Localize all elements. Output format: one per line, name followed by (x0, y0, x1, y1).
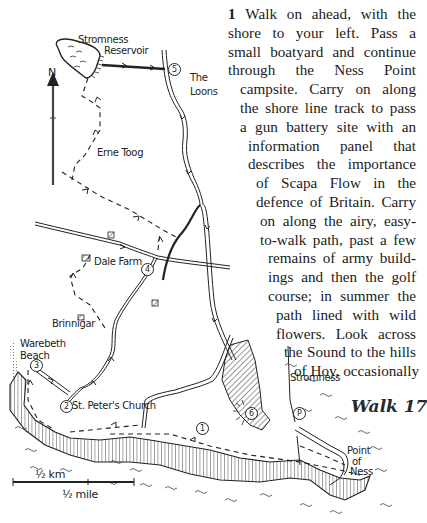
label-stromness-reservoir-2: Reservoir (104, 45, 148, 56)
label-point-of-ness-1: Point (347, 445, 370, 456)
label-the-loons-2: Loons (190, 86, 218, 97)
paragraph-line: course; in summer the (268, 287, 416, 306)
road-st-peters-to-stromness (142, 335, 233, 428)
label-brinnigar: Brinnigar (52, 318, 95, 329)
paragraph-line: to-walk path, past a few (260, 231, 416, 250)
label-the-loons-1: The (190, 72, 208, 83)
scale-km-label: ½ km (35, 468, 65, 481)
paragraph-line: 1 Walk on ahead, with the (228, 5, 416, 24)
paragraph-line: of Hoy, occasionally (294, 362, 416, 381)
label-dale-farm: Dale Farm (94, 256, 142, 267)
marker-parking: P (293, 407, 306, 420)
marker-6: 6 (245, 407, 258, 420)
paragraph-line: path lined with wild (276, 306, 416, 325)
label-erne-toog: Erne Toog (97, 147, 143, 158)
paragraph-line: campsite. Carry on along (240, 80, 416, 99)
buildings (78, 232, 158, 320)
marker-5: 5 (168, 63, 181, 76)
paragraph-line: information panel that (248, 137, 416, 156)
paragraph-line: a gun battery site with an (240, 118, 416, 137)
marker-4: 4 (141, 263, 154, 276)
marker-2: 2 (60, 400, 73, 413)
walk-title: Walk 17 (351, 396, 427, 416)
paragraph-line: defence of Britain. Carry (256, 193, 416, 212)
label-stromness-reservoir-1: Stromness (78, 34, 128, 45)
paragraph-line: the Sound to the hills (284, 343, 416, 362)
paragraph-line: flowers. Look across (276, 325, 416, 344)
scale-mile-label: ½ mile (62, 488, 98, 501)
road-to-st-peters (64, 258, 157, 405)
paragraph-line: shore to your left. Pass a (228, 24, 416, 43)
north-arrow (47, 72, 59, 185)
walk-description: 1 Walk on ahead, with theshore to your l… (228, 5, 416, 381)
paragraph-line: on along the airy, easy- (260, 212, 416, 231)
step-number: 1 (228, 5, 245, 22)
paragraph-line: small boatyard and continue (228, 43, 416, 62)
route-reservoir-to-loons (102, 63, 165, 70)
paragraph-line: the shore line track to pass (240, 99, 416, 118)
paragraph-line: remains of army build- (268, 249, 416, 268)
marker-3: 3 (30, 359, 43, 372)
paragraph-line: through the Ness Point (228, 61, 416, 80)
paragraph-line: of Scapa Flow in the (256, 174, 416, 193)
marker-1: 1 (196, 422, 209, 435)
paragraph-line: describes the importance (248, 155, 416, 174)
label-st-peters-church: St. Peter's Church (72, 400, 156, 411)
label-warebeth-1: Warebeth (20, 338, 66, 349)
scale-bar (13, 478, 134, 486)
paragraph-line: ings and then the golf (268, 268, 416, 287)
north-label: N (48, 66, 56, 79)
label-point-of-ness-3: Ness (350, 466, 373, 477)
